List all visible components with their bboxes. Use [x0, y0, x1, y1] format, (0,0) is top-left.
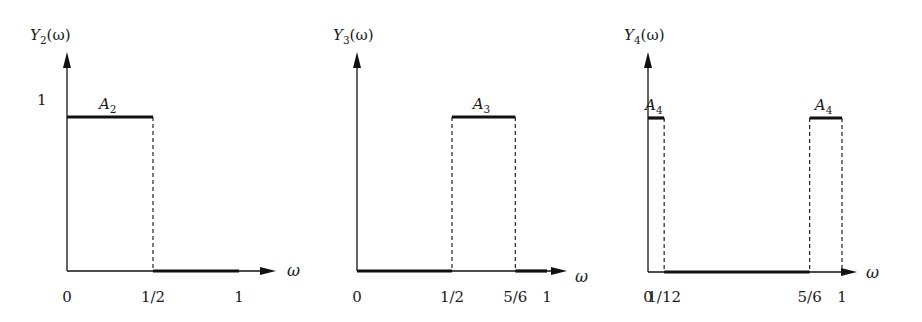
spectrum-plots: Y2(ω)ω1A201/21Y3(ω)ωA301/25/61Y4(ω)ωA4A4… — [0, 0, 922, 322]
x-tick-label: 1 — [542, 288, 552, 306]
x-axis-arrow-icon — [260, 267, 276, 275]
segment-label: A4 — [813, 96, 833, 116]
y-tick-label: 1 — [37, 91, 47, 109]
x-tick-label: 1 — [234, 288, 244, 306]
x-tick-label: 5/6 — [798, 288, 822, 306]
y-axis-arrow-icon — [644, 52, 652, 68]
segment-label: A3 — [471, 95, 491, 115]
x-tick-label: 1/2 — [141, 288, 165, 306]
x-tick-label: 0 — [352, 288, 362, 306]
panel-Y2: Y2(ω)ω1A201/21 — [30, 26, 300, 306]
x-axis-arrow-icon — [551, 267, 567, 275]
segment-label: A4 — [643, 96, 663, 116]
segment-label: A2 — [97, 95, 117, 115]
panel-Y3: Y3(ω)ωA301/25/61 — [333, 26, 588, 306]
y-axis-label: Y2(ω) — [30, 26, 71, 46]
y-axis-label: Y4(ω) — [624, 26, 665, 46]
figure: Y2(ω)ω1A201/21Y3(ω)ωA301/25/61Y4(ω)ωA4A4… — [0, 0, 922, 322]
y-axis-arrow-icon — [63, 52, 71, 68]
x-tick-label: 5/6 — [503, 288, 527, 306]
x-axis-label: ω — [575, 267, 588, 286]
panel-Y4: Y4(ω)ωA4A401/125/61 — [624, 26, 879, 306]
x-axis-arrow-icon — [841, 268, 857, 276]
x-axis-label: ω — [866, 263, 879, 282]
x-tick-label: 1/2 — [440, 288, 464, 306]
y-axis-arrow-icon — [353, 52, 361, 68]
x-tick-label: 1 — [837, 288, 847, 306]
y-axis-label: Y3(ω) — [333, 26, 374, 46]
x-tick-label: 0 — [62, 288, 72, 306]
x-axis-label: ω — [287, 261, 300, 280]
x-tick-label: 1/12 — [647, 288, 681, 306]
